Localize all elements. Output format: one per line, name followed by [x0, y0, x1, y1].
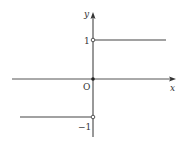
- tick-label-neg-one: −1: [78, 122, 91, 132]
- lower-open-endpoint: [91, 115, 95, 119]
- y-axis-label: y: [83, 9, 90, 19]
- upper-open-endpoint: [91, 38, 95, 42]
- x-axis-label: x: [170, 83, 175, 93]
- origin-label: O: [83, 82, 90, 92]
- function-graph: y 1 O x −1: [0, 0, 186, 145]
- tick-label-one: 1: [84, 36, 90, 46]
- origin-filled-point: [91, 77, 95, 81]
